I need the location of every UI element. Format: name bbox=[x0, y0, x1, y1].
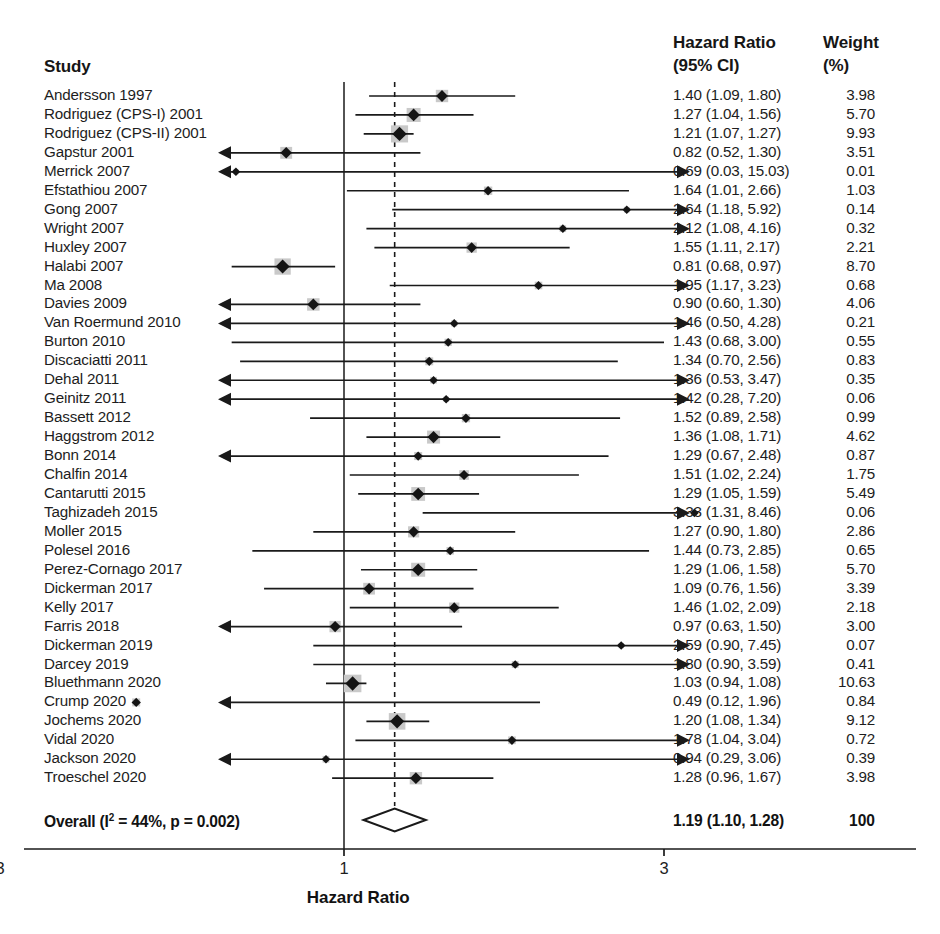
hazard-ratio-value: 0.94 (0.29, 3.06) bbox=[673, 749, 781, 766]
hazard-ratio-value: 1.42 (0.28, 7.20) bbox=[673, 389, 781, 406]
overall-summary-label: Overall (I2 = 44%, p = 0.002) bbox=[44, 812, 240, 831]
x-axis-tick-label: 3 bbox=[659, 859, 668, 878]
weight-value: 3.51 bbox=[823, 143, 875, 160]
ci-arrow-left bbox=[218, 753, 231, 766]
weight-value: 9.93 bbox=[823, 124, 875, 141]
ci-arrow-left bbox=[218, 146, 231, 159]
ci-arrow-left bbox=[218, 317, 231, 330]
study-name-label: Wright 2007 bbox=[44, 219, 124, 236]
forest-row-26 bbox=[361, 563, 477, 577]
ci-arrow-left bbox=[218, 165, 231, 178]
weight-value: 1.03 bbox=[823, 181, 875, 198]
column-header-hazard-ratio: Hazard Ratio bbox=[673, 33, 776, 53]
study-name-label: Kelly 2017 bbox=[44, 598, 113, 615]
study-name-label: Bassett 2012 bbox=[44, 408, 131, 425]
hazard-ratio-value: 0.49 (0.12, 1.96) bbox=[673, 692, 781, 709]
hazard-ratio-value: 2.64 (1.18, 5.92) bbox=[673, 200, 781, 217]
study-name-label: Halabi 2007 bbox=[44, 257, 123, 274]
hazard-ratio-value: 3.33 (1.31, 8.46) bbox=[673, 503, 781, 520]
forest-row-34 bbox=[366, 713, 429, 730]
study-name-label: Discaciatti 2011 bbox=[44, 351, 148, 368]
forest-row-17 bbox=[218, 393, 690, 406]
forest-row-4 bbox=[218, 146, 420, 159]
weight-value: 4.62 bbox=[823, 427, 875, 444]
hazard-ratio-value: 1.27 (0.90, 1.80) bbox=[673, 522, 781, 539]
weight-value: 9.12 bbox=[823, 711, 875, 728]
forest-row-5 bbox=[218, 165, 690, 178]
study-name-label: Rodriguez (CPS-II) 2001 bbox=[44, 124, 207, 141]
hazard-ratio-value: 1.46 (1.02, 2.09) bbox=[673, 598, 781, 615]
axis-title-hazard-ratio: Hazard Ratio bbox=[307, 888, 410, 908]
column-header-weight: Weight bbox=[823, 33, 879, 53]
forest-row-2 bbox=[355, 108, 473, 122]
weight-value: 0.06 bbox=[823, 389, 875, 406]
ci-arrow-left bbox=[218, 374, 231, 387]
overall-hazard-ratio-value: 1.19 (1.10, 1.28) bbox=[673, 812, 784, 830]
forest-row-30 bbox=[313, 639, 690, 652]
hazard-ratio-value: 1.21 (1.07, 1.27) bbox=[673, 124, 781, 141]
ci-arrow-left bbox=[218, 298, 231, 311]
forest-row-18 bbox=[310, 413, 620, 422]
weight-value: 0.83 bbox=[823, 351, 875, 368]
forest-row-8 bbox=[366, 222, 690, 235]
weight-value: 0.72 bbox=[823, 730, 875, 747]
weight-value: 0.35 bbox=[823, 370, 875, 387]
column-header-study: Study bbox=[44, 57, 91, 77]
study-name-label: Moller 2015 bbox=[44, 522, 122, 539]
study-name-label: Dehal 2011 bbox=[44, 370, 119, 387]
study-name-label: Davies 2009 bbox=[44, 294, 127, 311]
point-estimate-marker bbox=[617, 641, 626, 650]
study-name-label: Ma 2008 bbox=[44, 276, 102, 293]
forest-row-14 bbox=[232, 338, 664, 347]
hazard-ratio-value: 1.20 (1.08, 1.34) bbox=[673, 711, 781, 728]
point-estimate-marker bbox=[232, 168, 241, 177]
forest-row-33 bbox=[132, 696, 540, 709]
forest-row-11 bbox=[390, 279, 690, 292]
weight-value: 0.07 bbox=[823, 636, 875, 653]
weight-value: 1.75 bbox=[823, 465, 875, 482]
ci-arrow-left bbox=[218, 696, 231, 709]
study-name-label: Bluethmann 2020 bbox=[44, 673, 161, 690]
forest-row-7 bbox=[392, 203, 690, 216]
forest-row-1 bbox=[369, 90, 515, 102]
hazard-ratio-value: 1.34 (0.70, 2.56) bbox=[673, 351, 781, 368]
hazard-ratio-value: 1.55 (1.11, 2.17) bbox=[673, 238, 780, 255]
ci-arrow-left bbox=[218, 620, 231, 633]
hazard-ratio-value: 1.36 (0.53, 3.47) bbox=[673, 370, 781, 387]
hazard-ratio-value: 0.82 (0.52, 1.30) bbox=[673, 143, 781, 160]
forest-row-22 bbox=[358, 487, 479, 501]
forest-row-19 bbox=[366, 431, 500, 444]
x-axis-tick-label: 1 bbox=[339, 859, 348, 878]
study-name-label: Haggstrom 2012 bbox=[44, 427, 154, 444]
weight-value: 0.99 bbox=[823, 408, 875, 425]
weight-value: 0.32 bbox=[823, 219, 875, 236]
column-header-hazard-ratio-ci: (95% CI) bbox=[673, 56, 739, 76]
study-name-label: Huxley 2007 bbox=[44, 238, 127, 255]
study-name-label: Bonn 2014 bbox=[44, 446, 116, 463]
study-name-label: Farris 2018 bbox=[44, 617, 119, 634]
overall-weight-value: 100 bbox=[823, 812, 875, 830]
weight-value: 3.98 bbox=[823, 86, 875, 103]
hazard-ratio-value: 1.03 (0.94, 1.08) bbox=[673, 673, 781, 690]
hazard-ratio-value: 1.36 (1.08, 1.71) bbox=[673, 427, 781, 444]
hazard-ratio-value: 1.52 (0.89, 2.58) bbox=[673, 408, 781, 425]
forest-row-35 bbox=[355, 734, 690, 747]
study-name-label: Crump 2020 bbox=[44, 692, 126, 709]
hazard-ratio-value: 1.09 (0.76, 1.56) bbox=[673, 579, 781, 596]
hazard-ratio-value: 1.95 (1.17, 3.23) bbox=[673, 276, 781, 293]
study-name-label: Gong 2007 bbox=[44, 200, 118, 217]
study-name-label: Dickerman 2017 bbox=[44, 579, 152, 596]
hazard-ratio-value: 0.81 (0.68, 0.97) bbox=[673, 257, 781, 274]
forest-row-3 bbox=[364, 125, 414, 142]
study-name-label: Jochems 2020 bbox=[44, 711, 141, 728]
study-name-label: Jackson 2020 bbox=[44, 749, 136, 766]
hazard-ratio-value: 1.80 (0.90, 3.59) bbox=[673, 655, 781, 672]
weight-value: 2.21 bbox=[823, 238, 875, 255]
forest-row-29 bbox=[218, 620, 462, 633]
study-name-label: Chalfin 2014 bbox=[44, 465, 127, 482]
hazard-ratio-value: 2.12 (1.08, 4.16) bbox=[673, 219, 781, 236]
weight-value: 8.70 bbox=[823, 257, 875, 274]
hazard-ratio-value: 1.28 (0.96, 1.67) bbox=[673, 768, 781, 785]
weight-value: 0.14 bbox=[823, 200, 875, 217]
forest-row-32 bbox=[326, 675, 366, 693]
